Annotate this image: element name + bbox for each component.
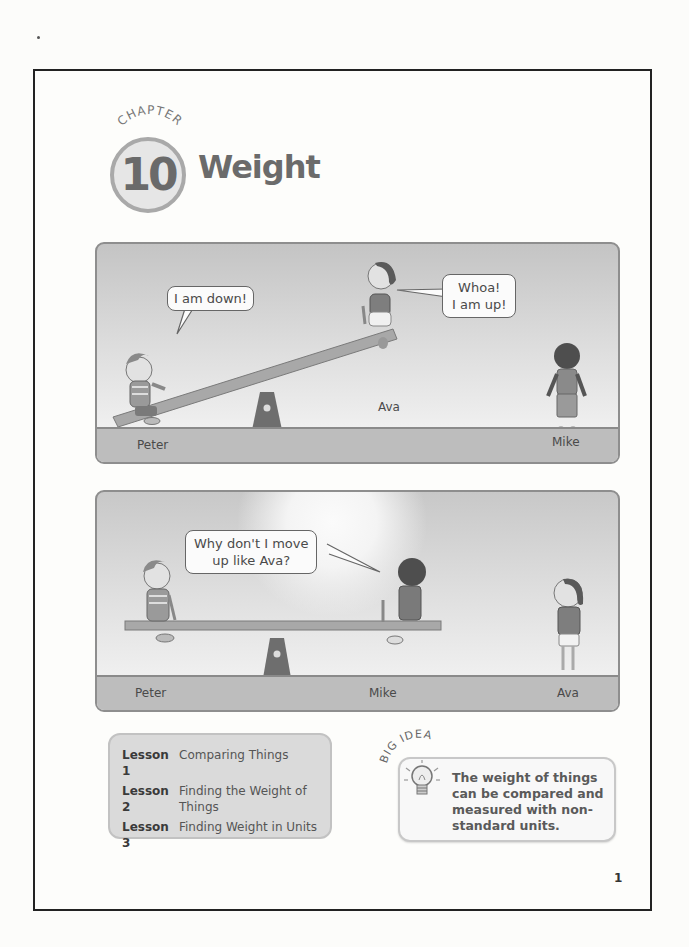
mike-figure: [383, 558, 426, 644]
speech-bubble-peter: Why don't I move up like Ava?: [185, 530, 317, 574]
name-label-peter: Peter: [137, 438, 168, 452]
lesson-number: Lesson 3: [122, 819, 179, 851]
chapter-circle: 10: [110, 137, 186, 213]
mike-figure: [548, 343, 585, 433]
lessons-list: Lesson 1 Comparing Things Lesson 2 Findi…: [108, 733, 332, 839]
name-label-mike: Mike: [552, 435, 580, 449]
lesson-item: Lesson 3 Finding Weight in Units: [122, 819, 320, 851]
name-label-ava: Ava: [378, 400, 400, 414]
chapter-number: 10: [120, 153, 175, 197]
name-label-mike: Mike: [369, 686, 397, 700]
lightbulb-icon: [402, 758, 442, 808]
speech-bubble-peter: I am down!: [167, 286, 254, 311]
name-label-ava: Ava: [557, 686, 579, 700]
chapter-title: Weight: [198, 148, 320, 186]
chapter-badge: 10: [110, 137, 186, 213]
name-label-peter: Peter: [135, 686, 166, 700]
svg-text:CHAPTER: CHAPTER: [115, 103, 186, 129]
ava-figure: [554, 579, 583, 670]
stray-mark: [37, 36, 40, 39]
lesson-number: Lesson 1: [122, 747, 179, 779]
lesson-title: Finding the Weight of Things: [179, 783, 320, 815]
lesson-number: Lesson 2: [122, 783, 179, 815]
lesson-title: Finding Weight in Units: [179, 819, 317, 851]
big-idea-text: The weight of things can be compared and…: [452, 770, 612, 834]
ground-strip: [97, 427, 618, 462]
lesson-item: Lesson 2 Finding the Weight of Things: [122, 783, 320, 815]
illustration-panel-2: Why don't I move up like Ava? Peter Mike…: [95, 490, 620, 712]
lesson-item: Lesson 1 Comparing Things: [122, 747, 320, 779]
ground-strip: [97, 675, 618, 710]
speech-bubble-ava: Whoa! I am up!: [442, 274, 516, 318]
lesson-title: Comparing Things: [179, 747, 288, 779]
illustration-panel-1: I am down! Whoa! I am up! Ava Peter Mike: [95, 242, 620, 464]
page-number: 1: [614, 871, 622, 885]
